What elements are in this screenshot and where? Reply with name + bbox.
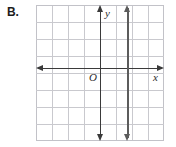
y-axis-arrow-up-icon: [97, 5, 103, 12]
x-axis-label: x: [153, 72, 158, 83]
x-axis-arrow-right-icon: [157, 65, 164, 71]
graphed-line-arrow-up-icon: [124, 5, 130, 12]
coordinate-plane-graph: y x O: [36, 5, 164, 141]
y-axis: [100, 8, 101, 138]
graphed-line-arrow-down-icon: [124, 134, 130, 141]
origin-label: O: [89, 72, 97, 83]
multiple-choice-figure-panel: B.: [0, 0, 176, 147]
x-axis-arrow-left-icon: [36, 65, 43, 71]
graphed-line-x-equals-2: [127, 8, 129, 138]
y-axis-arrow-down-icon: [97, 134, 103, 141]
y-axis-label: y: [105, 8, 110, 19]
choice-letter-label: B.: [7, 6, 19, 18]
